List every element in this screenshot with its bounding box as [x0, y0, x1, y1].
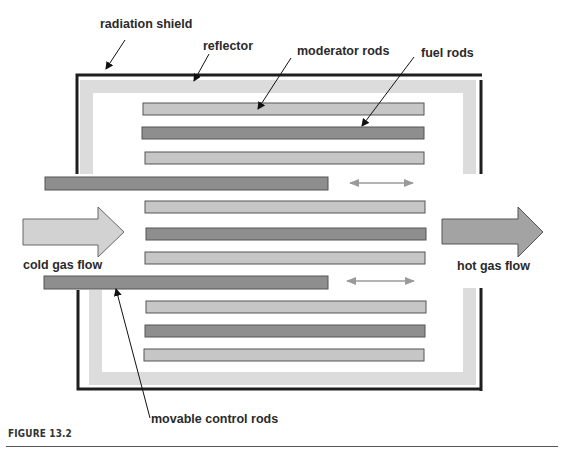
radiation-shield-pointer	[106, 40, 125, 69]
radiation-shield-label: radiation shield	[100, 17, 192, 31]
figure-caption: FIGURE 13.2	[8, 427, 72, 439]
moderator-rod	[143, 103, 424, 115]
moderator-rod	[145, 201, 425, 213]
moderator-rod	[146, 301, 426, 313]
hot-gas-flow-label: hot gas flow	[457, 259, 530, 273]
hot-gas-arrow-icon	[442, 207, 543, 257]
moderator-rod	[145, 152, 424, 164]
reflector-pointer	[194, 54, 209, 81]
reactor-diagram	[0, 0, 564, 454]
movable-control-rods-label: movable control rods	[151, 412, 278, 426]
cold-gas-arrow-icon	[23, 207, 124, 257]
control-rod[interactable]	[44, 276, 328, 289]
reflector-label: reflector	[203, 39, 253, 53]
control-rod[interactable]	[45, 177, 328, 190]
fuel-rod	[145, 325, 425, 337]
caption-divider	[6, 446, 558, 447]
fuel-rods-label: fuel rods	[421, 46, 474, 60]
fuel-rod	[146, 228, 426, 240]
moderator-rod	[145, 252, 425, 264]
moderator-rods-label: moderator rods	[297, 44, 389, 58]
cold-gas-flow-label: cold gas flow	[23, 258, 102, 272]
fuel-rod	[142, 127, 424, 139]
moderator-rod	[144, 349, 424, 361]
